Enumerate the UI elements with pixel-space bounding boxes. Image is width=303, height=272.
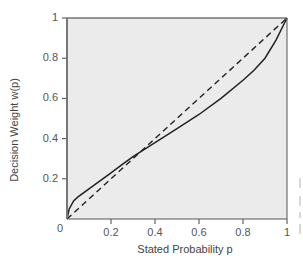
x-tick-label: 0.4 [135,226,175,238]
y-tick-label: 1 [0,11,58,23]
x-tick-label: 1 [267,226,303,238]
scan-artifact [299,178,301,188]
x-tick-label: 0.6 [179,226,219,238]
y-axis-label: Decision Weight w(p) [4,60,24,200]
x-tick-label: 0.8 [223,226,263,238]
x-tick-label: 0.2 [91,226,131,238]
origin-label: 0 [57,222,63,234]
scan-artifact [299,212,301,218]
x-axis-label: Stated Probability p [110,243,260,255]
scan-artifact [299,224,301,234]
scan-artifact [299,196,301,206]
